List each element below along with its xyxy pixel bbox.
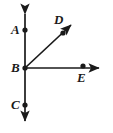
point-label-B: B xyxy=(11,61,20,74)
point-marker-A xyxy=(22,27,27,32)
point-label-D: D xyxy=(54,13,63,26)
point-marker-B xyxy=(22,65,27,70)
point-marker-C xyxy=(22,102,27,107)
point-label-E: E xyxy=(77,71,86,84)
point-marker-D xyxy=(60,30,65,35)
point-marker-E xyxy=(80,63,85,68)
geometry-figure: A B C D E xyxy=(0,0,113,133)
point-label-C: C xyxy=(11,98,20,111)
point-label-A: A xyxy=(11,23,20,36)
